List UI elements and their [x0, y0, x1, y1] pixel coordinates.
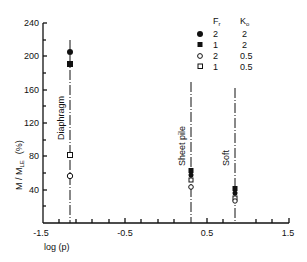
sheetpile-filled-square [189, 168, 194, 173]
x-tick-labels: -1.5 -0.5 0.5 1.5 [33, 228, 294, 238]
y-tick-120: 120 [24, 118, 39, 128]
diaphragm-open-square [68, 153, 73, 158]
legend: Fr Ko 2 2 1 2 2 0.5 1 0.5 [197, 16, 253, 72]
svg-text:2: 2 [242, 40, 247, 50]
group-lines [70, 40, 235, 223]
chart: 240 200 160 120 80 40 -1.5 -0.5 0.5 1.5 … [0, 0, 307, 262]
y-tick-160: 160 [24, 85, 39, 95]
y-axis-label: M / MLE(%) [14, 140, 25, 190]
svg-text:Fr: Fr [213, 16, 221, 27]
data-points [67, 49, 238, 203]
legend-open-circle-icon [198, 54, 203, 59]
soft-open-circle [233, 199, 237, 203]
svg-text:1: 1 [213, 40, 218, 50]
legend-filled-circle-icon [197, 31, 203, 37]
svg-text:Ko: Ko [240, 16, 250, 27]
y-tick-80: 80 [29, 151, 39, 161]
soft-filled-square [233, 186, 238, 191]
x-axis-label: log (p) [44, 242, 70, 252]
svg-text:2: 2 [213, 29, 218, 39]
x-tick-neg1.5: -1.5 [33, 228, 49, 238]
diaphragm-filled-circle [67, 49, 73, 55]
svg-text:2: 2 [242, 29, 247, 39]
diaphragm-open-circle [67, 173, 72, 178]
sheetpile-open-circle [189, 185, 194, 190]
x-tick-neg0.5: -0.5 [117, 228, 133, 238]
legend-open-square-icon [198, 64, 203, 69]
legend-filled-square-icon [198, 42, 203, 47]
svg-text:1: 1 [213, 62, 218, 72]
y-tick-200: 200 [24, 51, 39, 61]
y-tick-240: 240 [24, 18, 39, 28]
y-tick-40: 40 [29, 185, 39, 195]
label-soft: Soft [221, 149, 231, 166]
svg-text:M / MLE(%): M / MLE(%) [14, 140, 25, 190]
label-diaphragm: Diaphragm [56, 96, 66, 140]
x-tick-1.5: 1.5 [282, 228, 295, 238]
y-tick-labels: 240 200 160 120 80 40 [24, 18, 39, 195]
group-labels: Diaphragm Sheet pile Soft [56, 96, 231, 166]
svg-text:2: 2 [213, 51, 218, 61]
diaphragm-filled-square [67, 61, 73, 67]
sheetpile-open-square [189, 178, 193, 182]
label-sheet-pile: Sheet pile [177, 126, 187, 166]
sheetpile-filled-circle [189, 173, 194, 178]
svg-text:0.5: 0.5 [240, 51, 253, 61]
soft-filled-circle [233, 191, 238, 196]
svg-text:0.5: 0.5 [240, 62, 253, 72]
x-tick-0.5: 0.5 [201, 228, 214, 238]
